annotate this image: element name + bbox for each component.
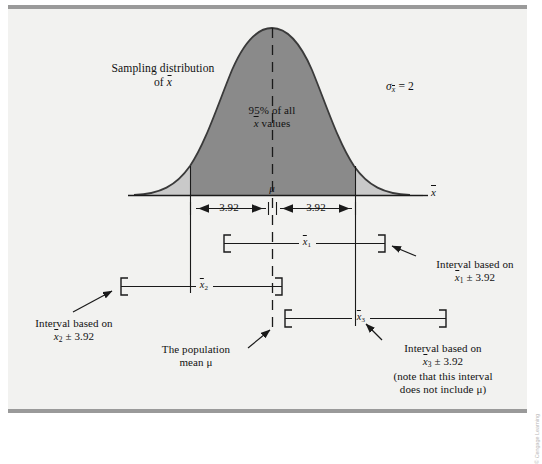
annot2-xbar-symbol: x (54, 330, 59, 343)
sigma-subscript-xbar: x (392, 85, 396, 94)
interval-bracket-xbar3 (285, 310, 446, 327)
margin-left-label: 3.92 (219, 201, 239, 214)
population-mean-line1: The population (162, 343, 230, 355)
annotation-xbar1-text: Interval based on x1 ± 3.92 (436, 258, 513, 286)
sampling-distribution-label: Sampling distribution of x (112, 62, 215, 89)
xbar-symbol-sampling: x (167, 76, 172, 90)
annot3-text-line4: does not include μ) (400, 383, 486, 395)
annot3-pm-value: ± 3.92 (435, 355, 464, 367)
xbar1-label: x1 (303, 236, 311, 249)
population-mean-annotation: The population mean μ (162, 343, 230, 369)
mu-label: μ (269, 182, 275, 195)
annot3-xbar-symbol: x (423, 355, 428, 368)
margin-right-value: 3.92 (306, 201, 326, 213)
xbar2-label: x2 (200, 279, 208, 292)
annot1-xbar-sub: 1 (460, 276, 464, 285)
percent-values-label: 95% of all x values (249, 104, 296, 130)
xbar3-symbol: x (357, 311, 362, 323)
annot1-pm-value: ± 3.92 (467, 271, 496, 283)
annot3-xbar-sub: 3 (428, 360, 432, 369)
annotation-arrow-population-mean (248, 330, 270, 348)
annot2-xbar-sub: 2 (59, 335, 63, 344)
annotation-arrow-xbar1 (392, 246, 416, 256)
percent-line2-suffix: values (259, 117, 291, 129)
xbar1-symbol: x (303, 236, 308, 248)
xbar3-subscript: 3 (362, 316, 366, 324)
mu-symbol: μ (269, 182, 275, 194)
xbar-symbol-axis: x (431, 186, 436, 199)
sigma-value: = 2 (398, 80, 414, 93)
annot2-text-line1: Interval based on (35, 317, 112, 329)
annotation-arrow-xbar2 (73, 291, 112, 312)
sigma-xbar-label: σx = 2 (386, 80, 414, 95)
xbar1-subscript: 1 (308, 241, 312, 249)
annotation-xbar2-text: Interval based on x2 ± 3.92 (35, 317, 112, 345)
sampling-distribution-line2-prefix: of (154, 76, 167, 89)
percent-line1: 95% of all (249, 104, 296, 116)
copyright-credit: © Cengage Learning (534, 414, 540, 464)
xbar2-symbol: x (200, 279, 205, 291)
annot1-text-line1: Interval based on (436, 258, 513, 270)
xbar-symbol-percent: x (254, 117, 259, 130)
x-axis-label: x (431, 186, 436, 199)
margin-right-label: 3.92 (306, 201, 326, 214)
xbar2-subscript: 2 (205, 284, 209, 292)
annot2-pm-value: ± 3.92 (66, 330, 95, 342)
annotation-xbar3-text: Interval based on x3 ± 3.92 (note that t… (393, 342, 492, 396)
population-mean-line2: mean μ (179, 356, 212, 368)
annot1-xbar-symbol: x (455, 271, 460, 284)
annot3-text-line3: (note that this interval (393, 370, 492, 382)
annotation-arrow-xbar3 (366, 324, 382, 340)
sampling-distribution-line1: Sampling distribution (112, 62, 215, 75)
xbar3-label: x3 (357, 311, 365, 324)
margin-left-value: 3.92 (219, 201, 239, 213)
annot3-text-line1: Interval based on (404, 342, 481, 354)
